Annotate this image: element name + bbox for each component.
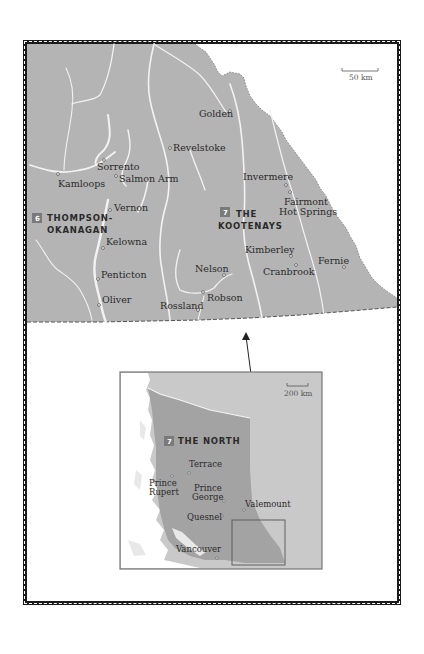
region-number-badge: 7: [223, 209, 228, 217]
main-map: 50 km Golden Revelstoke Sorrento Salmo: [27, 44, 397, 322]
map-canvas: 50 km Golden Revelstoke Sorrento Salmo: [0, 0, 424, 654]
place-cranbrook: Cranbrook: [263, 266, 315, 277]
svg-text:KOOTENAYS: KOOTENAYS: [218, 221, 283, 231]
place-oliver: Oliver: [102, 294, 132, 305]
place-vernon: Vernon: [113, 202, 148, 213]
region-number-badge: 7: [167, 438, 172, 446]
svg-text:OKANAGAN: OKANAGAN: [47, 225, 108, 235]
place-nelson: Nelson: [195, 263, 229, 274]
place-kamloops: Kamloops: [58, 178, 105, 189]
place-sorrento: Sorrento: [97, 161, 140, 172]
place-invermere: Invermere: [243, 171, 294, 182]
place-quesnel: Quesnel: [187, 512, 222, 522]
svg-text:THE: THE: [236, 209, 257, 219]
place-valemount: Valemount: [244, 499, 291, 509]
place-revelstoke: Revelstoke: [173, 142, 226, 153]
place-penticton: Penticton: [101, 269, 147, 280]
svg-text:THOMPSON-: THOMPSON-: [47, 213, 113, 223]
scale-label: 200 km: [284, 389, 312, 398]
place-terrace: Terrace: [189, 459, 222, 469]
place-kelowna: Kelowna: [106, 236, 147, 247]
place-salmon-arm: Salmon Arm: [119, 173, 179, 184]
place-fairmont-line2: Hot Springs: [279, 206, 337, 217]
place-vancouver: Vancouver: [175, 544, 222, 554]
place-robson: Robson: [207, 292, 243, 303]
place-prince-george-line2: George: [192, 492, 223, 502]
scale-bar-50km: 50 km: [342, 68, 378, 82]
inset-map: 200 km 7 THE NORTH Terrace Prince Rupert…: [120, 372, 322, 569]
scale-label: 50 km: [349, 73, 373, 82]
place-golden: Golden: [199, 108, 233, 119]
svg-text:THE NORTH: THE NORTH: [178, 436, 240, 446]
place-rossland: Rossland: [160, 300, 204, 311]
region-number-badge: 6: [35, 215, 40, 223]
place-fernie: Fernie: [318, 255, 349, 266]
place-prince-rupert-line2: Rupert: [149, 487, 179, 497]
place-kimberley: Kimberley: [245, 244, 295, 255]
